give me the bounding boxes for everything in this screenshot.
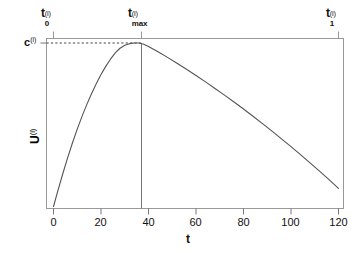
x-axis-ticks (54, 209, 339, 215)
x-axis-title: t (186, 232, 190, 246)
annotation-tmax: t(i)max (128, 7, 154, 19)
utility-curve-path (54, 43, 339, 207)
x-tick-label-100: 100 (276, 216, 305, 228)
x-tick-label-0: 0 (39, 216, 68, 228)
y-axis-title-sup: (i) (28, 129, 37, 136)
annotation-c-level: c(i) (24, 36, 36, 48)
y-axis-title-base: U (28, 135, 42, 144)
annotation-t1-sub: 1 (330, 20, 334, 28)
annotation-t0: t(i)0 (41, 7, 56, 19)
annotation-t0-sub: 0 (45, 20, 49, 28)
x-tick-label-80: 80 (229, 216, 258, 228)
x-tick-label-60: 60 (181, 216, 210, 228)
annotation-tmax-sup: (i) (132, 10, 138, 18)
annotation-t1-sup: (i) (330, 10, 336, 18)
annotation-t0-sup: (i) (45, 10, 51, 18)
annotation-tmax-sub: max (132, 20, 147, 28)
plot-frame-box (47, 39, 344, 209)
annotation-t1: t(i)1 (326, 7, 341, 19)
y-axis-title: U(i) (28, 129, 42, 144)
chart-figure: t(i)0 t(i)max t(i)1 c(i) U(i) 0 20 40 60… (0, 0, 358, 253)
y-axis-title-wrap: U(i) (8, 88, 30, 148)
x-tick-label-20: 20 (86, 216, 115, 228)
x-tick-label-40: 40 (134, 216, 163, 228)
x-tick-label-120: 120 (324, 216, 353, 228)
annotation-c-sup: (i) (30, 36, 36, 43)
